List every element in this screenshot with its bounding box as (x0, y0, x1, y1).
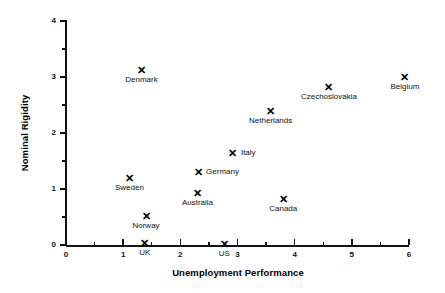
x-tick-major (408, 239, 409, 245)
x-tick-minor (208, 242, 209, 246)
point-label: Germany (206, 168, 239, 176)
y-tick-minor (62, 104, 66, 105)
y-tick-minor (62, 216, 66, 217)
point-label: Canada (269, 205, 297, 213)
y-tick-label: 2 (52, 129, 56, 137)
x-tick-label: 5 (350, 251, 354, 259)
x-tick-label: 4 (292, 251, 296, 259)
point-label: Norway (132, 222, 159, 230)
cross-marker-icon: ✕ (400, 72, 409, 83)
point-label: Australia (182, 199, 213, 207)
x-tick-label: 0 (64, 251, 68, 259)
scatter-chart: 012345601234 Unemployment Performance No… (0, 0, 445, 293)
cross-marker-icon: ✕ (140, 238, 149, 249)
cross-marker-icon: ✕ (266, 105, 275, 116)
y-tick-major (60, 20, 66, 21)
y-tick-label: 4 (52, 17, 56, 25)
cross-marker-icon: ✕ (137, 65, 146, 76)
cross-marker-icon: ✕ (194, 167, 203, 178)
cross-marker-icon: ✕ (228, 147, 237, 158)
y-tick-major (60, 132, 66, 133)
x-tick-major (122, 239, 123, 245)
cross-marker-icon: ✕ (193, 188, 202, 199)
x-tick-minor (265, 242, 266, 246)
x-tick-major (237, 239, 238, 245)
cross-marker-icon: ✕ (279, 194, 288, 205)
cross-marker-icon: ✕ (142, 210, 151, 221)
x-tick-major (351, 239, 352, 245)
point-label: Czechoslovakia (301, 93, 357, 101)
x-tick-label: 2 (178, 251, 182, 259)
y-tick-label: 1 (52, 185, 56, 193)
x-tick-minor (151, 242, 152, 246)
y-axis-title: Nominal Rigidity (19, 95, 30, 172)
x-tick-label: 3 (235, 251, 239, 259)
x-tick-major (294, 239, 295, 245)
y-tick-major (60, 244, 66, 245)
y-tick-label: 0 (52, 241, 56, 249)
point-label: UK (139, 249, 150, 257)
cross-marker-icon: ✕ (125, 172, 134, 183)
y-tick-minor (62, 48, 66, 49)
point-label: Denmark (125, 76, 157, 84)
x-tick-label: 6 (407, 251, 411, 259)
point-label: Italy (241, 149, 256, 157)
point-label: US (219, 250, 230, 258)
x-tick-minor (380, 242, 381, 246)
y-tick-minor (62, 160, 66, 161)
y-tick-label: 3 (52, 73, 56, 81)
point-label: Netherlands (249, 117, 292, 125)
x-axis-title: Unemployment Performance (172, 267, 304, 278)
point-label: Sweden (115, 184, 144, 192)
x-axis-line (66, 245, 409, 247)
point-label: Belgium (391, 83, 420, 91)
x-tick-minor (323, 242, 324, 246)
x-tick-minor (94, 242, 95, 246)
y-tick-major (60, 76, 66, 77)
x-tick-label: 1 (121, 251, 125, 259)
y-tick-major (60, 188, 66, 189)
cross-marker-icon: ✕ (324, 81, 333, 92)
cross-marker-icon: ✕ (220, 238, 229, 249)
x-tick-major (180, 239, 181, 245)
